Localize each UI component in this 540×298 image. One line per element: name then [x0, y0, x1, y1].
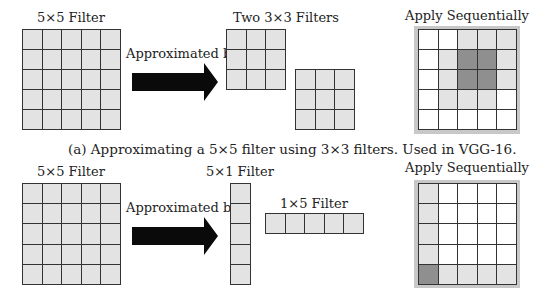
grid-cell: [101, 70, 121, 90]
grid-cell: [439, 204, 459, 224]
grid-cell: [23, 265, 43, 285]
grid-cell: [478, 184, 498, 204]
grid-cell: [439, 184, 459, 204]
grid-cell: [458, 30, 478, 50]
grid-cell: [62, 110, 82, 130]
grid-cell: [266, 214, 286, 234]
grid-cell: [23, 70, 43, 90]
grid-cell: [82, 50, 102, 70]
grid-cell: [439, 30, 459, 50]
grid-cell: [316, 110, 336, 130]
grid-cell: [23, 30, 43, 50]
grid-cell: [266, 30, 286, 50]
grid-cell: [286, 214, 306, 234]
grid-cell: [247, 30, 267, 50]
grid-cell: [305, 214, 325, 234]
panel-a-caption: (a) Approximating a 5×5 filter using 3×3…: [68, 141, 516, 157]
grid-cell: [335, 110, 355, 130]
panel-a-3x3-filter-1: [226, 29, 286, 90]
grid-cell: [478, 30, 498, 50]
grid-cell: [62, 90, 82, 110]
grid-cell: [458, 70, 478, 90]
arrow-right-icon: [132, 217, 218, 255]
grid-cell: [335, 70, 355, 90]
grid-cell: [43, 184, 63, 204]
grid-cell: [439, 90, 459, 110]
grid-cell: [419, 110, 439, 130]
grid-cell: [82, 30, 102, 50]
panel-a-arrow-label: Approximated by: [126, 46, 222, 62]
grid-cell: [458, 245, 478, 265]
grid-cell: [247, 50, 267, 70]
panel-a-3x3-filter-2: [295, 69, 355, 130]
grid-cell: [101, 204, 121, 224]
grid-cell: [82, 204, 102, 224]
panel-b-row-filter-label: 1×5 Filter: [278, 196, 350, 212]
grid-cell: [439, 70, 459, 90]
grid-cell: [419, 30, 439, 50]
grid-cell: [82, 70, 102, 90]
panel-b-arrow-label: Approximated by: [126, 200, 222, 216]
panel-a-filter-label: 5×5 Filter: [22, 10, 120, 26]
grid-cell: [43, 70, 63, 90]
grid-cell: [497, 90, 517, 110]
grid-cell: [458, 110, 478, 130]
grid-cell: [419, 204, 439, 224]
panel-b-result-grid: [418, 183, 517, 285]
grid-cell: [478, 224, 498, 244]
grid-cell: [231, 224, 251, 244]
grid-cell: [62, 70, 82, 90]
grid-cell: [231, 265, 251, 285]
grid-cell: [101, 110, 121, 130]
grid-cell: [43, 90, 63, 110]
grid-cell: [82, 265, 102, 285]
panel-a-5x5-filter: [22, 29, 121, 130]
arrow-right-icon: [132, 63, 218, 101]
grid-cell: [266, 70, 286, 90]
grid-cell: [43, 204, 63, 224]
grid-cell: [62, 204, 82, 224]
grid-cell: [497, 110, 517, 130]
grid-cell: [478, 245, 498, 265]
grid-cell: [43, 110, 63, 130]
grid-cell: [478, 204, 498, 224]
grid-cell: [43, 224, 63, 244]
panel-b-filter-label: 5×5 Filter: [22, 164, 120, 180]
panel-a-result-label: Apply Sequentially: [404, 8, 530, 24]
grid-cell: [419, 224, 439, 244]
grid-cell: [227, 50, 247, 70]
grid-cell: [497, 70, 517, 90]
panel-a-small-filters-label: Two 3×3 Filters: [226, 10, 346, 26]
grid-cell: [419, 265, 439, 285]
grid-cell: [62, 265, 82, 285]
grid-cell: [478, 70, 498, 90]
grid-cell: [439, 110, 459, 130]
panel-b-1x5-filter: [265, 213, 364, 234]
grid-cell: [101, 90, 121, 110]
grid-cell: [227, 70, 247, 90]
grid-cell: [478, 110, 498, 130]
grid-cell: [325, 214, 345, 234]
grid-cell: [497, 184, 517, 204]
grid-cell: [82, 245, 102, 265]
grid-cell: [478, 50, 498, 70]
grid-cell: [247, 70, 267, 90]
grid-cell: [101, 224, 121, 244]
grid-cell: [101, 50, 121, 70]
grid-cell: [478, 265, 498, 285]
grid-cell: [231, 204, 251, 224]
grid-cell: [62, 50, 82, 70]
grid-cell: [458, 224, 478, 244]
grid-cell: [101, 184, 121, 204]
grid-cell: [458, 184, 478, 204]
grid-cell: [62, 184, 82, 204]
grid-cell: [43, 30, 63, 50]
grid-cell: [82, 90, 102, 110]
grid-cell: [266, 50, 286, 70]
grid-cell: [419, 70, 439, 90]
grid-cell: [296, 70, 316, 90]
grid-cell: [296, 90, 316, 110]
grid-cell: [227, 30, 247, 50]
panel-b-5x1-filter: [230, 183, 251, 285]
grid-cell: [82, 224, 102, 244]
